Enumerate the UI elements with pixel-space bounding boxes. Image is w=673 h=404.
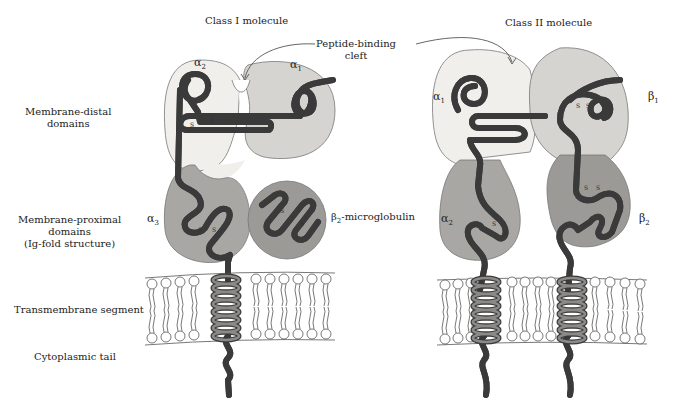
class1-tm-helix <box>213 276 239 340</box>
class1-molecule: S S S S S S <box>164 60 335 395</box>
class1-b2m-label: β2-microglobulin <box>331 211 415 225</box>
label-membrane-distal: Membrane-distal domains <box>25 106 111 130</box>
disulfide-s: S <box>596 184 600 191</box>
proximal-line2: domains <box>18 226 121 238</box>
distal-line2: domains <box>25 118 111 130</box>
proximal-line1: Membrane-proximal <box>18 214 121 226</box>
class2-beta2-label: β2 <box>639 212 650 227</box>
peptide-binding-cleft-label: Peptide-binding cleft <box>316 38 396 62</box>
class1-alpha3-label: α3 <box>147 212 159 227</box>
disulfide-s: S <box>300 220 304 227</box>
disulfide-s: S <box>190 121 194 128</box>
label-cytoplasmic: Cytoplasmic tail <box>34 351 116 363</box>
label-transmembrane: Transmembrane segment <box>14 304 144 316</box>
disulfide-s: S <box>280 207 284 214</box>
class2-beta1-label: β1 <box>648 90 659 105</box>
callout-line1: Peptide-binding <box>316 38 396 50</box>
class1-alpha2-label: α2 <box>194 56 206 71</box>
callout-line2: cleft <box>316 50 396 62</box>
disulfide-s: S <box>584 184 588 191</box>
disulfide-s: S <box>212 226 216 233</box>
distal-line1: Membrane-distal <box>25 106 111 118</box>
class1-title: Class I molecule <box>205 15 288 27</box>
class2-membrane <box>437 277 647 345</box>
disulfide-s: S <box>210 117 214 124</box>
proximal-line3: (Ig-fold structure) <box>18 238 121 250</box>
class2-beta-tm-helix <box>559 278 585 342</box>
class2-alpha2-label: α2 <box>441 212 453 227</box>
disulfide-s: S <box>504 230 508 237</box>
class1-alpha1-label: α1 <box>290 58 302 73</box>
class2-alpha1-domain <box>432 50 535 166</box>
disulfide-s: S <box>586 102 590 109</box>
disulfide-s: S <box>492 220 496 227</box>
class2-title: Class II molecule <box>505 17 592 29</box>
class1-alpha1-domain <box>244 61 335 158</box>
class1-membrane <box>145 272 335 345</box>
label-membrane-proximal: Membrane-proximal domains (Ig-fold struc… <box>18 214 121 250</box>
class2-alpha1-label: α1 <box>433 90 445 105</box>
disulfide-s: S <box>576 102 580 109</box>
class2-alpha-tm-helix <box>473 278 499 342</box>
disulfide-s: S <box>198 226 202 233</box>
